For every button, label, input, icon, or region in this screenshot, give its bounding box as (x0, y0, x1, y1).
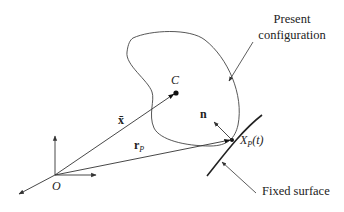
label-present-configuration: Present configuration (240, 11, 344, 43)
label-origin: O (52, 180, 61, 192)
normal-vector (214, 122, 232, 140)
body-outline (127, 32, 239, 147)
label-fixed-surface: Fixed surface (262, 185, 330, 198)
label-x-bar: x̄ (118, 114, 124, 126)
axis-out (19, 175, 55, 194)
center-point (173, 90, 178, 95)
leader-present-configuration (229, 42, 253, 81)
leader-fixed-surface (222, 162, 256, 193)
label-contact-point: XP(t) (240, 134, 264, 149)
label-r-p: rP (134, 139, 144, 154)
rigid-body-contact-diagram: Present configuration Fixed surface O C … (0, 0, 344, 212)
label-center: C (171, 74, 179, 86)
label-normal: n (200, 108, 207, 120)
